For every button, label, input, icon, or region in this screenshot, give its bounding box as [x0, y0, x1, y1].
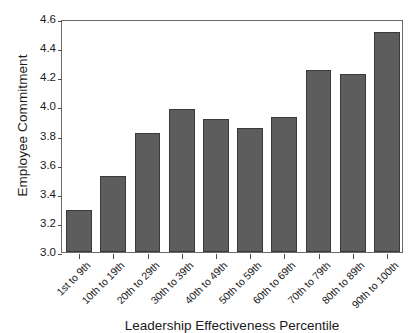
bar-slot [271, 21, 297, 252]
bar[interactable] [100, 176, 126, 252]
y-axis-tick-labels: 3.03.23.43.63.84.04.24.44.6 [30, 0, 56, 326]
bar-slot [66, 21, 92, 252]
plot-area [61, 20, 403, 253]
bar[interactable] [374, 32, 400, 252]
bar[interactable] [237, 128, 263, 252]
y-axis-tick-label: 3.4 [30, 189, 56, 201]
bar-slot [237, 21, 263, 252]
bar[interactable] [135, 133, 161, 252]
y-axis-tick-mark [58, 167, 62, 168]
y-axis-tick-label: 3.8 [30, 131, 56, 143]
y-axis-tick-label: 4.2 [30, 73, 56, 85]
y-axis-tick-mark [58, 21, 62, 22]
y-axis-tick-mark [58, 138, 62, 139]
bar[interactable] [306, 70, 332, 252]
bar[interactable] [340, 74, 366, 252]
y-axis-tick-mark [58, 50, 62, 51]
y-axis-tick-mark [58, 79, 62, 80]
bar-slot [374, 21, 400, 252]
y-axis-title: Employee Commitment [15, 11, 30, 241]
y-axis-tick-label: 4.0 [30, 102, 56, 114]
bar-slot [100, 21, 126, 252]
bar[interactable] [169, 109, 195, 252]
plot-inner [62, 21, 402, 252]
y-axis-tick-label: 3.0 [30, 247, 56, 259]
bar-slot [169, 21, 195, 252]
bar-slot [340, 21, 366, 252]
y-axis-tick-label: 3.2 [30, 218, 56, 230]
y-axis-tick-label: 4.4 [30, 43, 56, 55]
bar-slot [203, 21, 229, 252]
bar[interactable] [271, 117, 297, 252]
x-axis-title: Leadership Effectiveness Percentile [61, 318, 403, 333]
y-axis-tick-mark [58, 196, 62, 197]
bar[interactable] [66, 210, 92, 252]
y-axis-tick-label: 3.6 [30, 160, 56, 172]
y-axis-tick-mark [58, 108, 62, 109]
x-axis-tick-labels: 1st to 9th10th to 19th20th to 29th30th t… [61, 253, 403, 326]
bar-slot [135, 21, 161, 252]
y-axis-tick-mark [58, 225, 62, 226]
bar-slot [306, 21, 332, 252]
y-axis-tick-label: 4.6 [30, 14, 56, 26]
bar[interactable] [203, 119, 229, 252]
